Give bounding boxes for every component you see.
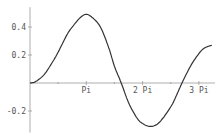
axes bbox=[28, 7, 215, 132]
x-tick-label: 3 Pi bbox=[189, 86, 208, 95]
y-tick-label: 0.2 bbox=[12, 51, 27, 60]
y-tick-label: -0.2 bbox=[7, 107, 26, 116]
tick-labels: Pi2 Pi3 Pi0.40.2-0.2 bbox=[7, 23, 209, 116]
x-tick-label: 2 Pi bbox=[133, 86, 152, 95]
x-tick-label: Pi bbox=[81, 86, 91, 95]
line-chart: Pi2 Pi3 Pi0.40.2-0.2 bbox=[0, 0, 223, 137]
data-line bbox=[30, 14, 212, 126]
y-tick-label: 0.4 bbox=[12, 23, 27, 32]
